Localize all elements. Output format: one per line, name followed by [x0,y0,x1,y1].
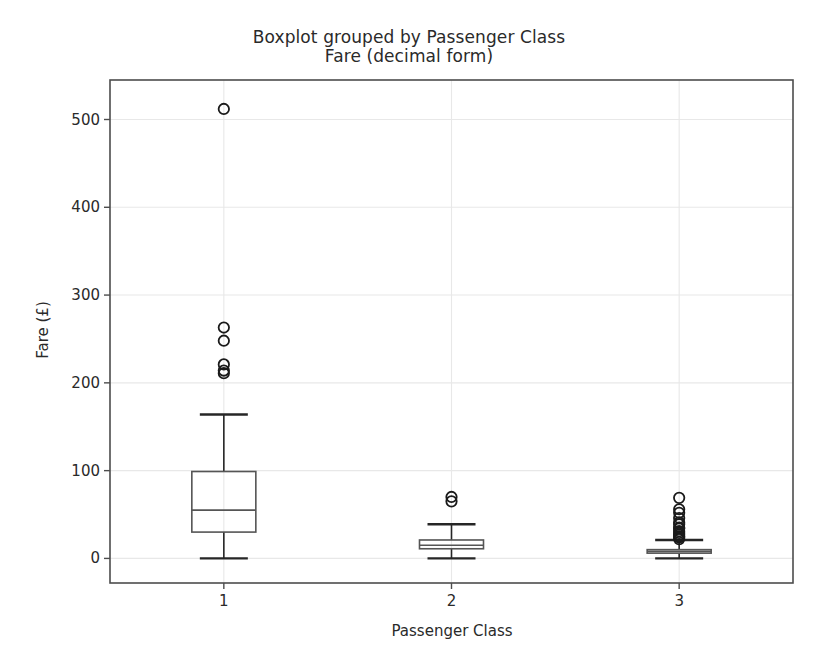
chart-figure: Boxplot grouped by Passenger Class Fare … [0,0,818,667]
boxplot-canvas [0,0,818,667]
